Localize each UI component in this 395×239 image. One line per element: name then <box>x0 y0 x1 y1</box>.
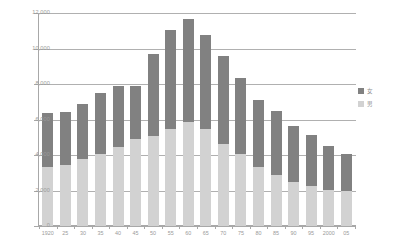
x-tick-mark <box>267 226 268 229</box>
x-tick-mark <box>74 226 75 229</box>
x-tick-mark <box>215 226 216 229</box>
bar-segment-male <box>235 154 246 226</box>
chart-legend: 女男 <box>358 86 392 112</box>
bar-segment-male <box>95 154 106 226</box>
x-tick-mark <box>92 226 93 229</box>
chart-title <box>38 1 356 12</box>
bar-segment-male <box>148 136 159 227</box>
x-tick-mark <box>127 226 128 229</box>
x-tick-mark <box>337 226 338 229</box>
bar-segment-female <box>323 146 334 190</box>
legend-label: 女 <box>367 88 373 94</box>
x-tick-mark <box>144 226 145 229</box>
legend-swatch <box>358 88 364 94</box>
x-tick-mark <box>162 226 163 229</box>
bar-segment-female <box>77 104 88 160</box>
bar-segment-male <box>253 167 264 226</box>
x-tick-mark <box>179 226 180 229</box>
bar-segment-female <box>271 111 282 176</box>
bar-segment-female <box>253 100 264 168</box>
x-tick-mark <box>320 226 321 229</box>
bar-segment-female <box>60 112 71 164</box>
bar-series-container <box>39 13 356 226</box>
x-tick-mark <box>232 226 233 229</box>
x-tick-mark <box>57 226 58 229</box>
bar-segment-male <box>323 190 334 226</box>
bar-segment-male <box>341 191 352 226</box>
bar-segment-female <box>130 86 141 139</box>
bar-segment-female <box>341 154 352 191</box>
bar-segment-female <box>148 54 159 136</box>
y-tick-label: 10,000 <box>20 45 50 51</box>
x-tick-mark <box>109 226 110 229</box>
legend-swatch <box>358 101 364 107</box>
bar-segment-male <box>165 129 176 226</box>
bar-segment-female <box>113 86 124 147</box>
y-tick-label: 6,000 <box>20 116 50 122</box>
plot-area <box>38 13 356 226</box>
bar-segment-male <box>113 147 124 226</box>
bar-segment-male <box>77 159 88 226</box>
x-tick-mark <box>197 226 198 229</box>
y-tick-label: 8,000 <box>20 80 50 86</box>
bar-segment-male <box>306 186 317 226</box>
bar-segment-male <box>218 144 229 227</box>
x-tick-mark <box>250 226 251 229</box>
bar-segment-male <box>271 175 282 226</box>
bar-segment-male <box>183 122 194 226</box>
y-tick-label: 2,000 <box>20 187 50 193</box>
bar-segment-male <box>200 129 211 226</box>
bar-segment-male <box>60 165 71 226</box>
chart-screenshot: 12,00010,0008,0006,0004,0002,0000 192025… <box>0 0 395 239</box>
bar-segment-female <box>95 93 106 154</box>
bar-segment-female <box>165 30 176 129</box>
bar-segment-male <box>288 182 299 226</box>
bar-segment-female <box>288 126 299 182</box>
x-tick-mark <box>39 226 40 229</box>
bar-segment-male <box>130 139 141 226</box>
x-tick-label: 05 <box>335 230 357 236</box>
bar-segment-female <box>306 135 317 187</box>
legend-item[interactable]: 女 <box>358 86 392 96</box>
bar-segment-female <box>183 19 194 122</box>
y-tick-label: 4,000 <box>20 151 50 157</box>
y-tick-label: 12,000 <box>20 9 50 15</box>
bar-segment-female <box>218 56 229 144</box>
x-tick-mark <box>355 226 356 229</box>
x-axis-ticks: 1920253035404550556065707580859095200005 <box>38 226 356 239</box>
legend-label: 男 <box>367 101 373 107</box>
bar-segment-female <box>235 78 246 154</box>
x-tick-mark <box>285 226 286 229</box>
legend-item[interactable]: 男 <box>358 99 392 109</box>
x-tick-mark <box>302 226 303 229</box>
bar-segment-male <box>42 167 53 227</box>
bar-segment-female <box>200 35 211 129</box>
